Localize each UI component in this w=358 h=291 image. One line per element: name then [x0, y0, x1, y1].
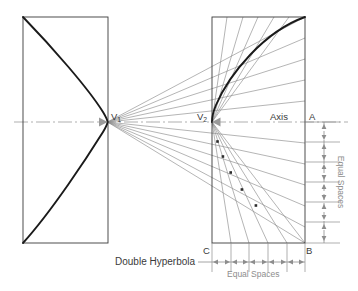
corner-label-a: A	[309, 111, 316, 122]
canvas-background	[0, 0, 358, 291]
corner-label-c: C	[203, 245, 210, 256]
axis-label: Axis	[270, 111, 288, 122]
equal-spaces-vertical-label: Equal Spaces	[336, 156, 346, 208]
figure-title: Double Hyperbola	[115, 256, 195, 267]
double-hyperbola-figure: V1 V2 Axis A B C Double Hyperbola Equal …	[0, 0, 358, 291]
corner-label-b: B	[306, 245, 312, 256]
equal-spaces-horizontal-label: Equal Spaces	[227, 269, 279, 279]
